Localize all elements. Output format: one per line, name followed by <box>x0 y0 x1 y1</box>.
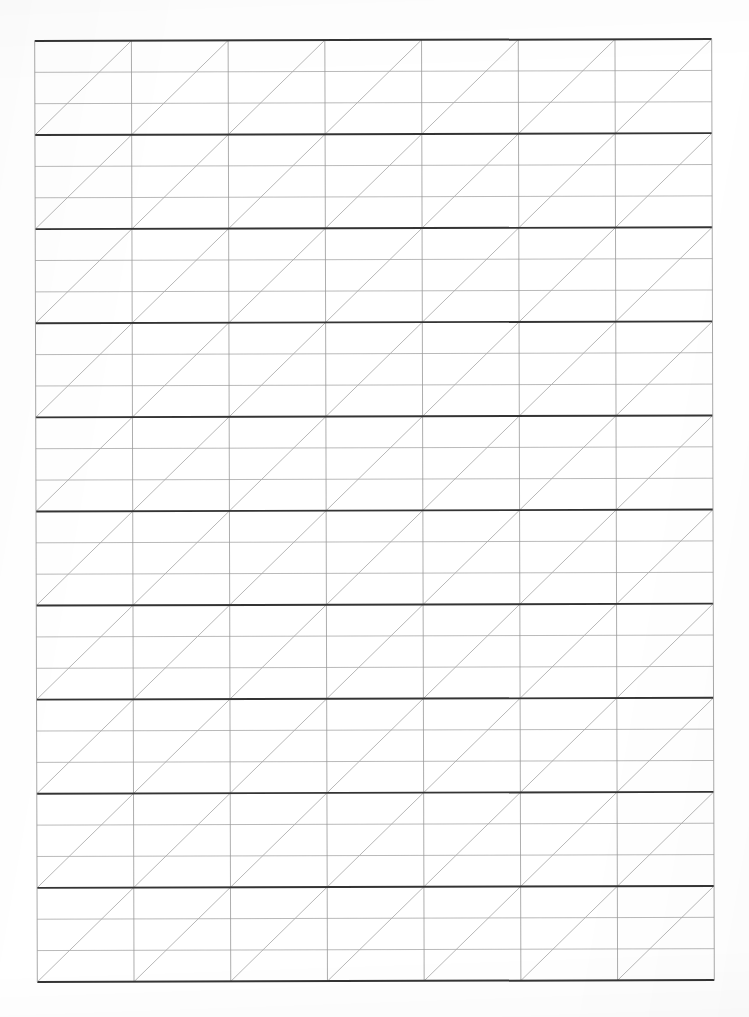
diagonal-line-r10-c4 <box>327 887 424 981</box>
diagonal-line-r4-c6 <box>519 322 616 416</box>
diagonal-line-r2-c6 <box>519 133 616 227</box>
diagonal-line-r5-c7 <box>616 415 713 509</box>
minor-rule-r8-s2 <box>37 760 714 762</box>
diagonal-line-r9-c2 <box>134 793 231 887</box>
diagonal-line-r8-c4 <box>327 699 424 793</box>
minor-rule-r10-s1 <box>37 917 714 919</box>
diagonal-line-r10-c3 <box>230 887 327 981</box>
diagonal-line-r6-c6 <box>520 510 617 604</box>
diagonal-line-r3-c1 <box>35 229 132 323</box>
minor-rule-r2-s1 <box>35 165 712 167</box>
diagonal-line-r7-c1 <box>36 605 133 699</box>
diagonal-line-r9-c3 <box>230 793 327 887</box>
minor-rule-r3-s2 <box>35 290 712 292</box>
minor-rule-r1-s1 <box>35 70 712 72</box>
major-rule-4 <box>36 415 713 417</box>
diagonal-line-r4-c5 <box>422 322 519 416</box>
diagonal-line-r1-c3 <box>228 40 325 134</box>
minor-rule-r9-s1 <box>37 823 714 825</box>
diagonal-line-r6-c1 <box>36 511 133 605</box>
diagonal-line-r1-c7 <box>615 39 712 133</box>
diagonal-line-r5-c2 <box>132 417 229 511</box>
diagonal-line-r6-c5 <box>423 510 520 604</box>
diagonal-line-r1-c1 <box>35 41 132 135</box>
diagonal-line-r8-c6 <box>520 698 617 792</box>
worksheet-page <box>0 0 749 1017</box>
diagonal-line-r4-c3 <box>229 322 326 416</box>
diagonal-line-r7-c6 <box>520 604 617 698</box>
diagonal-line-r8-c7 <box>617 698 714 792</box>
diagonal-line-r4-c2 <box>132 323 229 417</box>
diagonal-line-r7-c7 <box>617 604 714 698</box>
diagonal-line-r8-c2 <box>133 699 230 793</box>
diagonal-line-r1-c2 <box>131 40 228 134</box>
diagonal-line-r6-c7 <box>616 510 713 604</box>
diagonal-line-r10-c2 <box>134 887 231 981</box>
minor-rule-r2-s2 <box>35 196 712 198</box>
diagonal-line-r3-c3 <box>229 228 326 322</box>
minor-rule-r5-s1 <box>36 447 713 449</box>
minor-rule-r4-s1 <box>36 353 713 355</box>
diagonal-line-r5-c5 <box>423 416 520 510</box>
diagonal-line-r5-c3 <box>229 417 326 511</box>
minor-rule-r9-s2 <box>37 855 714 857</box>
grid-border-bottom <box>37 980 714 982</box>
diagonal-line-r3-c7 <box>615 227 712 321</box>
diagonal-line-r1-c6 <box>518 39 615 133</box>
major-rule-8 <box>37 792 714 794</box>
minor-rule-r3-s1 <box>35 259 712 261</box>
diagonal-line-r10-c6 <box>521 886 618 980</box>
diagonal-line-r2-c7 <box>615 133 712 227</box>
diagonal-line-r1-c5 <box>422 40 519 134</box>
major-rule-3 <box>35 321 712 323</box>
major-rule-2 <box>35 227 712 229</box>
diagonal-line-r9-c7 <box>617 792 714 886</box>
diagonal-line-r8-c3 <box>230 699 327 793</box>
diagonal-line-r2-c5 <box>422 134 519 228</box>
diagonal-line-r2-c3 <box>228 134 325 228</box>
diagonal-line-r5-c6 <box>519 416 616 510</box>
diagonal-line-r3-c2 <box>132 229 229 323</box>
major-rule-1 <box>35 133 712 135</box>
diagonal-line-r7-c2 <box>133 605 230 699</box>
diagonal-line-r9-c6 <box>520 792 617 886</box>
major-rule-6 <box>36 604 713 606</box>
minor-rule-r1-s2 <box>35 102 712 104</box>
diagonal-line-r9-c1 <box>37 793 134 887</box>
minor-rule-r5-s2 <box>36 478 713 480</box>
minor-rule-r6-s2 <box>36 572 713 574</box>
minor-rule-r6-s1 <box>36 541 713 543</box>
minor-rule-r10-s2 <box>37 949 714 951</box>
diagonal-line-r1-c4 <box>325 40 422 134</box>
diagonal-line-r7-c5 <box>423 604 520 698</box>
diagonal-line-r8-c5 <box>423 698 520 792</box>
diagonal-line-r9-c5 <box>424 792 521 886</box>
diagonal-line-r6-c2 <box>133 511 230 605</box>
major-horizontal-lines-group <box>35 133 714 888</box>
minor-rule-r8-s1 <box>37 729 714 731</box>
diagonal-line-r3-c4 <box>325 228 422 322</box>
diagonal-line-r10-c1 <box>37 888 134 982</box>
diagonal-line-r5-c4 <box>326 416 423 510</box>
diagonal-line-r5-c1 <box>36 417 133 511</box>
diagonal-line-r4-c1 <box>35 323 132 417</box>
diagonal-line-r2-c1 <box>35 135 132 229</box>
diagonal-line-r3-c5 <box>422 228 519 322</box>
grid-border-top <box>35 39 712 41</box>
diagonal-line-r10-c7 <box>617 886 714 980</box>
diagonal-line-r10-c5 <box>424 886 521 980</box>
diagonal-line-r3-c6 <box>519 228 616 322</box>
major-rule-9 <box>37 886 714 888</box>
diagonal-line-r6-c4 <box>326 510 423 604</box>
diagonal-line-r7-c4 <box>326 604 423 698</box>
minor-rule-r7-s2 <box>36 666 713 668</box>
major-rule-5 <box>36 510 713 512</box>
diagonal-line-r9-c4 <box>327 793 424 887</box>
diagonal-line-r7-c3 <box>230 605 327 699</box>
major-rule-7 <box>37 698 714 700</box>
diagonal-line-r4-c4 <box>326 322 423 416</box>
diagonal-line-r2-c2 <box>132 135 229 229</box>
minor-rule-r4-s2 <box>36 384 713 386</box>
diagonal-line-r4-c7 <box>616 321 713 415</box>
diagonal-ruled-grid <box>0 0 749 1017</box>
